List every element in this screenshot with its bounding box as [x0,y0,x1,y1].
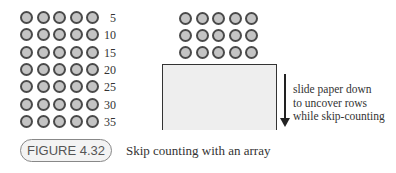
down-arrow-shaft [284,74,286,120]
instruction-line: while skip-counting [293,110,385,124]
array-dot [70,63,83,76]
array-dot [70,28,83,41]
array-dot [86,115,99,128]
array-dot [53,28,66,41]
array-dot [86,98,99,111]
figure-caption: Skip counting with an array [126,143,270,159]
array-dot [229,12,242,25]
array-dot [37,63,50,76]
array-dot [53,115,66,128]
array-dot [53,11,66,24]
array-dot [70,46,83,59]
array-dot [37,11,50,24]
array-dot [229,46,242,59]
array-dot [196,29,209,42]
row-count-label: 25 [104,81,116,93]
array-dot [245,46,258,59]
array-dot [20,63,33,76]
row-count-label: 10 [104,29,116,41]
array-dot [53,80,66,93]
row-count-label: 20 [104,64,116,76]
array-dot [245,12,258,25]
row-count-label: 15 [104,47,116,59]
array-dot [179,46,192,59]
array-dot [70,11,83,24]
array-dot [20,46,33,59]
array-dot [212,29,225,42]
array-dot [86,11,99,24]
array-dot [70,98,83,111]
array-dot [229,29,242,42]
array-dot [212,12,225,25]
figure-label: FIGURE 4.32 [20,139,112,162]
down-arrow-icon [280,118,290,127]
row-count-label: 35 [104,116,116,128]
array-dot [86,80,99,93]
array-dot [70,80,83,93]
array-dot [86,46,99,59]
array-dot [196,12,209,25]
row-count-label: 5 [110,12,116,24]
array-dot [20,80,33,93]
array-dot [53,98,66,111]
array-dot [212,46,225,59]
array-dot [37,46,50,59]
instruction-line: slide paper down [293,83,385,97]
array-dot [20,11,33,24]
covering-paper [162,64,277,130]
array-dot [37,80,50,93]
array-dot [245,29,258,42]
array-dot [70,115,83,128]
array-dot [20,98,33,111]
array-dot [37,115,50,128]
array-dot [86,28,99,41]
array-dot [53,46,66,59]
instruction-line: to uncover rows [293,97,385,111]
array-dot [20,115,33,128]
slide-instruction: slide paper down to uncover rows while s… [293,83,385,124]
array-dot [37,98,50,111]
array-dot [179,12,192,25]
array-dot [20,28,33,41]
array-dot [196,46,209,59]
array-dot [86,63,99,76]
row-count-label: 30 [104,99,116,111]
array-dot [37,28,50,41]
array-dot [179,29,192,42]
array-dot [53,63,66,76]
